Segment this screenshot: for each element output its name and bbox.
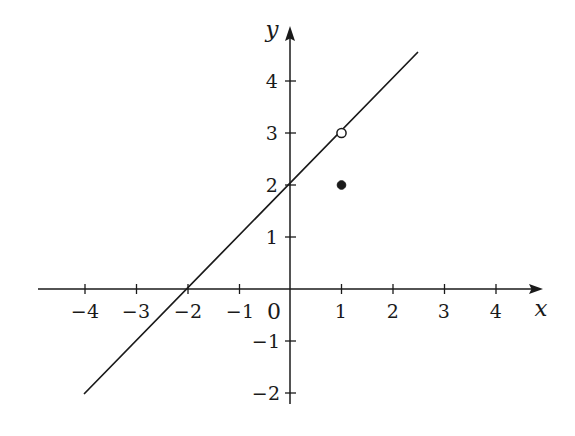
x-tick-label--1: −1: [226, 302, 254, 321]
y-tick-label--1: −1: [252, 332, 280, 351]
x-tick-label--4: −4: [71, 302, 99, 321]
origin-label-0: 0: [267, 301, 281, 323]
closed-point-marker: [333, 176, 351, 194]
coordinate-plot-figure: −4 −3 −2 −1 0 1 2 3 4 −2 −1 1 2 3 4 y x …: [0, 0, 575, 436]
x-axis-label: x: [535, 297, 548, 320]
x-tick-label-4: 4: [490, 302, 502, 321]
x-tick-label--2: −2: [174, 302, 202, 321]
y-tick-label-4: 4: [266, 72, 278, 91]
y-axis-label: y: [266, 18, 279, 41]
plot-canvas: [0, 0, 575, 436]
y-tick-label-3: 3: [266, 124, 278, 143]
y-tick-label--2: −2: [252, 384, 280, 403]
x-tick-label-2: 2: [387, 302, 399, 321]
y-tick-label-2: 2: [266, 176, 278, 195]
x-tick-label-3: 3: [438, 302, 450, 321]
x-tick-label-1: 1: [335, 302, 347, 321]
x-tick-label--3: −3: [122, 302, 150, 321]
y-tick-label-1: 1: [266, 228, 278, 247]
open-point-marker: [333, 124, 351, 142]
